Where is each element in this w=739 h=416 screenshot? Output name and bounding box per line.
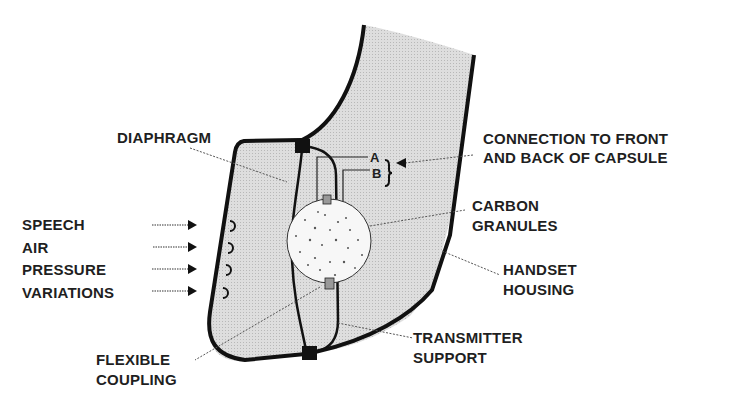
label-handset-housing: HANDSET HOUSING (503, 260, 577, 300)
label-connection: CONNECTION TO FRONT AND BACK OF CAPSULE (483, 129, 668, 167)
label-flexible-coupling-line1: FLEXIBLE (96, 350, 177, 370)
label-connection-line2: AND BACK OF CAPSULE (483, 148, 668, 167)
label-connection-line1: CONNECTION TO FRONT (483, 129, 668, 148)
label-variations: VARIATIONS (22, 282, 114, 305)
label-flexible-coupling: FLEXIBLE COUPLING (96, 350, 177, 390)
label-terminal-a: A (370, 151, 380, 165)
label-terminal-b: B (372, 167, 382, 181)
label-carbon-granules: CARBON GRANULES (472, 196, 558, 236)
label-flexible-coupling-line2: COUPLING (96, 370, 177, 390)
label-transmitter-support: TRANSMITTER SUPPORT (413, 328, 523, 368)
speech-arrow-heads (188, 220, 197, 296)
label-speech: SPEECH (22, 214, 114, 237)
label-pressure: PRESSURE (22, 259, 114, 282)
label-handset-housing-line2: HOUSING (503, 280, 577, 300)
label-handset-housing-line1: HANDSET (503, 260, 577, 280)
label-speech-input: SPEECH AIR PRESSURE VARIATIONS (22, 214, 114, 304)
flexible-coupling (325, 278, 334, 289)
label-air: AIR (22, 237, 114, 260)
top-clamp (295, 139, 310, 153)
label-carbon-granules-line1: CARBON (472, 196, 558, 216)
label-transmitter-support-line2: SUPPORT (413, 348, 523, 368)
label-transmitter-support-line1: TRANSMITTER (413, 328, 523, 348)
bottom-clamp (302, 346, 317, 360)
capsule-top-contact (323, 195, 331, 204)
carbon-granule-capsule (287, 199, 371, 283)
speech-arrows (152, 225, 188, 291)
label-diaphragm: DIAPHRAGM (117, 128, 211, 148)
label-carbon-granules-line2: GRANULES (472, 216, 558, 236)
handset-housing (300, 25, 474, 352)
